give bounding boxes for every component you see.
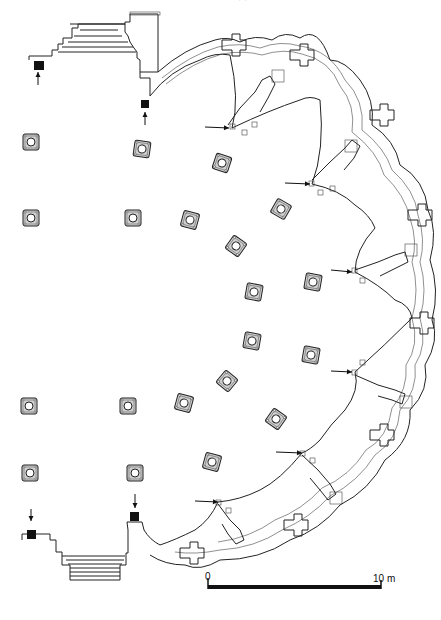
wall-columns <box>216 122 365 513</box>
solid-pier-block <box>27 530 36 539</box>
scale-end-label: 10 m <box>373 573 395 584</box>
pier <box>216 370 239 393</box>
bottom-entrance-steps <box>22 522 144 580</box>
pier <box>127 465 143 481</box>
scale-bar <box>208 578 381 589</box>
pier <box>265 408 287 430</box>
pier <box>304 273 323 292</box>
arrow-right-icon <box>195 499 218 504</box>
pier <box>180 210 200 230</box>
arrow-down-icon <box>29 509 34 521</box>
pier <box>243 332 262 351</box>
lobe-buttresses <box>180 34 434 564</box>
arrow-down-icon <box>133 494 138 508</box>
arrow-right-icon <box>331 369 352 374</box>
arrow-up-icon <box>36 72 41 85</box>
pier <box>225 235 247 257</box>
pier <box>22 465 38 481</box>
pier <box>245 283 264 302</box>
pier <box>23 134 39 150</box>
pier <box>174 393 194 413</box>
arrow-right-icon <box>276 450 302 455</box>
lobed-perimeter-wall <box>144 34 436 567</box>
pier <box>23 210 39 226</box>
free-standing-piers <box>21 134 322 481</box>
scale-start-label: 0 <box>205 571 211 582</box>
pier <box>212 153 232 173</box>
radial-niches <box>218 70 417 544</box>
arrow-right-icon <box>331 269 352 274</box>
arrow-right-icon <box>285 181 310 186</box>
pier <box>125 210 141 226</box>
top-entrance-steps <box>29 12 160 96</box>
pier <box>21 398 37 414</box>
solid-pier-block <box>141 100 149 108</box>
floor-plan <box>0 0 441 620</box>
solid-pier-block <box>34 61 44 70</box>
pier <box>202 452 222 472</box>
pier <box>270 198 292 220</box>
annotation-arrows <box>29 72 353 521</box>
pier <box>133 140 151 158</box>
plan-structure <box>22 12 436 580</box>
arrow-up-icon <box>143 112 148 125</box>
solid-pier-block <box>130 512 139 521</box>
pier <box>302 346 321 365</box>
pier <box>120 398 136 414</box>
arrow-right-icon <box>205 125 229 130</box>
